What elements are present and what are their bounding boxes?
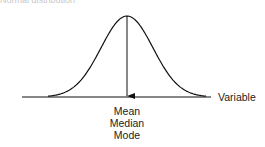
label-mean: Mean [114, 105, 140, 117]
normal-distribution-diagram: Variable Mean Median Mode [0, 0, 265, 147]
axis-label-variable: Variable [218, 91, 256, 103]
label-mode: Mode [114, 129, 140, 141]
label-median: Median [110, 117, 145, 129]
